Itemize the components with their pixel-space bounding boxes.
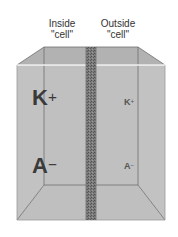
outside-anion: A− [124,162,134,171]
membrane [86,47,96,220]
inside-label-line2: "cell" [32,29,92,40]
inside-anion: A− [32,155,57,177]
outside-potassium-ion: K+ [124,98,134,107]
outside-cell-label: Outside "cell" [88,18,148,40]
inside-potassium-ion: K+ [32,87,57,109]
outside-label-line1: Outside [88,18,148,29]
inside-label-line1: Inside [32,18,92,29]
outside-label-line2: "cell" [88,29,148,40]
inside-cell-label: Inside "cell" [32,18,92,40]
